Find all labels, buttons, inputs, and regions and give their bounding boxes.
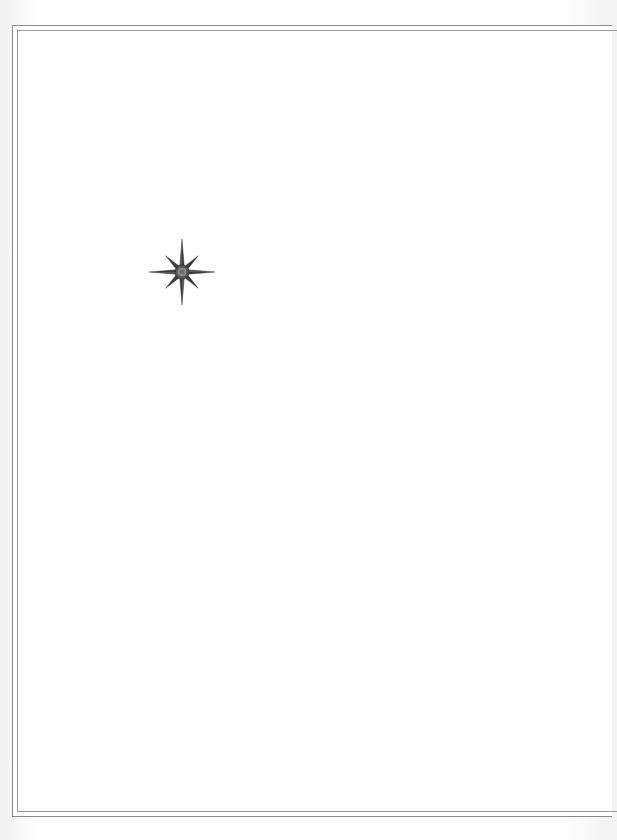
compass-rose-icon bbox=[148, 238, 216, 306]
map-border-inner bbox=[17, 30, 617, 812]
